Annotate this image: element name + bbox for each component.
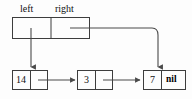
header-label-left: left (20, 4, 33, 14)
node-7-value: 7 (150, 75, 155, 85)
right-pointer-arrow (70, 28, 158, 67)
header-label-right: right (55, 4, 74, 14)
node-7-nil-label: nil (166, 75, 177, 85)
diagram-canvas (0, 0, 192, 99)
node-3-value: 3 (84, 75, 89, 85)
linked-list-diagram: left right 14 3 7 nil (0, 0, 192, 99)
node-14-value: 14 (16, 75, 26, 85)
